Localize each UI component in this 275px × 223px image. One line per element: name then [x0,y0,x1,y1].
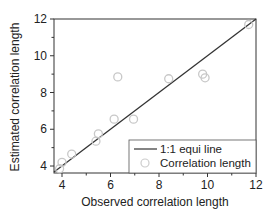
y-tick-label: 12 [34,12,48,26]
x-tick-label: 4 [59,178,66,192]
y-tick-label: 8 [40,86,47,100]
x-tick-label: 6 [107,178,114,192]
y-tick-label: 6 [40,122,47,136]
x-tick-label: 10 [201,178,215,192]
y-tick-label: 4 [40,159,47,173]
legend: 1:1 equi line Correlation length [129,140,256,173]
y-tick-label: 10 [34,49,48,63]
x-tick-label: 12 [249,178,263,192]
legend-scatter-label: Correlation length [160,157,251,169]
y-axis-label: Estimated correlation length [8,23,22,172]
x-axis-label: Observed correlation length [81,195,228,209]
scatter-chart: 4681012 4681012 1:1 equi line Correlatio… [0,0,275,223]
y-axis-ticks: 4681012 [34,12,54,173]
legend-line-label: 1:1 equi line [160,143,222,155]
x-tick-label: 8 [156,178,163,192]
x-axis-ticks: 4681012 [59,173,263,192]
